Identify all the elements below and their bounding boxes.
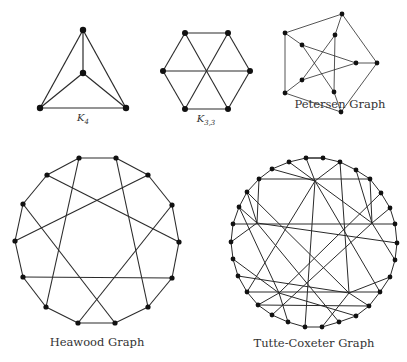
graph-edge [258,305,369,306]
graph-vertex [270,313,275,318]
graph-vertex [354,314,359,319]
graph-vertex [300,78,305,83]
graph-vertex [245,190,250,195]
k4-graph [37,27,129,111]
graph-vertex [256,303,261,308]
graph-vertex [257,177,262,182]
graph-edge [395,243,397,260]
graph-vertex [145,304,150,309]
graph-vertex [75,320,80,325]
graph-vertex [338,160,343,165]
tutte-coxeter-graph [229,156,400,330]
graph-edge [15,175,148,241]
graph-edge [116,158,148,307]
graph-vertex [123,105,129,111]
graph-edge [40,73,83,108]
k33-graph [160,30,253,112]
graph-edge [272,315,288,322]
graph-edge [302,63,356,80]
graph-vertex [80,27,86,33]
graph-edge [228,33,250,71]
graph-vertex [236,274,241,279]
graph-edge [258,293,279,305]
graph-edge [289,158,306,162]
graph-vertex [320,325,325,330]
graph-edge [259,169,272,179]
graph-edge [47,175,179,242]
graph-edge [83,73,126,108]
graph-edge [247,192,349,293]
graph-edge [247,179,259,192]
graph-vertex [304,156,309,161]
graph-vertex [44,172,49,177]
graph-edge [257,223,397,243]
heawood-graph-label: Heawood Graph [50,335,145,349]
graph-edge [390,208,395,224]
graph-edge [334,35,335,92]
graph-edge [340,162,349,293]
graph-edge [247,292,258,305]
graph-edge [285,33,302,45]
graph-edge [335,14,342,35]
graph-vertex [388,275,393,280]
graph-vertex [378,290,383,295]
graph-edge [46,158,79,307]
graph-edge [356,306,369,316]
graph-vertex [340,12,345,17]
graph-edge [148,278,172,307]
graph-vertex [231,257,236,262]
graph-edge [381,193,390,208]
graph-edge [258,305,272,315]
graph-vertex [225,30,231,36]
graph-vertex [169,202,174,207]
graph-edge [233,207,239,224]
graph-edge [370,179,381,193]
graph-edge [116,158,148,175]
graph-edge [163,33,185,71]
graph-vertex [303,325,308,330]
heawood-graph [12,155,181,325]
graph-edge [23,175,47,204]
graph-edge [78,205,172,323]
graph-vertex [225,106,231,112]
graph-vertex [286,320,291,325]
graph-edge [115,307,148,323]
graph-edge [288,322,305,327]
graph-vertex [43,304,48,309]
graph-edge [272,162,289,169]
graph-edge [231,223,257,242]
tutte-coxeter-graph-label: Tutte-Coxeter Graph [254,336,375,350]
graph-edge [302,45,356,63]
graph-edge [40,30,83,108]
graph-vertex [332,90,337,95]
graph-vertex [80,70,86,76]
graph-edge [285,14,342,33]
graph-vertex [368,177,373,182]
graph-vertex [169,275,174,280]
graph-vertex [229,240,234,245]
graph-edge [47,158,79,175]
graph-vertex [20,274,25,279]
graph-edge [231,242,233,259]
graph-edge [239,192,247,207]
graph-edge [247,181,315,292]
graph-edge [15,204,23,241]
graph-vertex [12,238,17,243]
graph-vertex [176,239,181,244]
graph-edge [46,307,78,323]
graph-vertex [20,201,25,206]
graph-vertex [37,105,43,111]
graph-vertex [231,222,236,227]
graph-edge [349,293,369,306]
graph-edge [302,45,334,92]
graph-edge [163,71,185,109]
graph-vertex [113,155,118,160]
graph-edge [23,204,115,323]
graph-vertex [367,304,372,309]
graph-edge [228,71,250,109]
graph-edge [257,179,259,223]
graph-vertex [379,191,384,196]
graph-vertex [283,31,288,36]
graph-edge [172,205,179,242]
graph-edge [172,242,179,278]
